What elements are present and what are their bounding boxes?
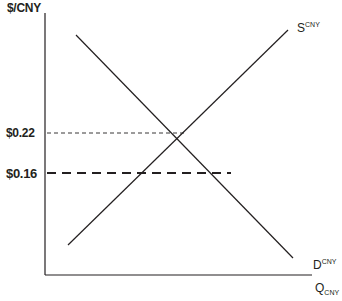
supply-demand-diagram [0,0,342,301]
price-label-016: $0.16 [6,166,37,181]
price-label-022: $0.22 [6,126,35,140]
supply-curve [68,30,288,245]
supply-label: SCNY [297,21,320,35]
y-axis-label: $/CNY [7,1,41,15]
x-axis-label: QCNY [315,281,339,295]
demand-label: DCNY [313,258,336,272]
demand-curve [76,35,293,258]
